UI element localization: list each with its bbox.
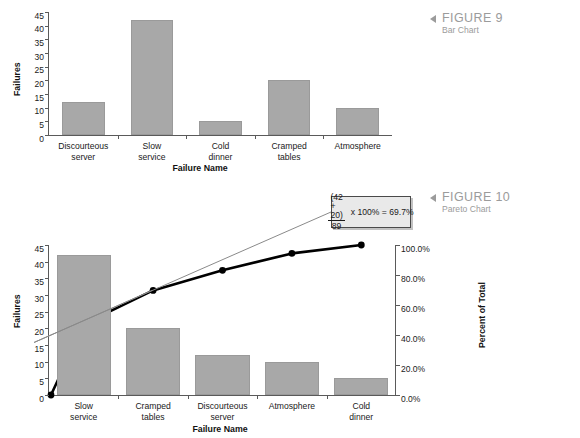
figure-10-label: FIGURE 10 <box>442 191 510 204</box>
callout-denominator: 89 <box>330 221 344 231</box>
figure-9-label: FIGURE 9 <box>442 12 503 25</box>
caption-triangle-icon <box>430 194 436 202</box>
callout-leader-line <box>0 0 580 438</box>
callout-numerator: (42 + 20) <box>328 193 344 220</box>
caption-triangle-icon <box>430 15 436 23</box>
figure-10-caption: Pareto Chart <box>442 204 510 215</box>
figure-caption-9: FIGURE 9 Bar Chart <box>430 12 503 36</box>
callout-expression: x 100% = 69.7% <box>351 207 414 217</box>
callout-box: (42 + 20) 89 x 100% = 69.7% <box>331 196 411 228</box>
figure-9-caption: Bar Chart <box>442 25 503 36</box>
callout-fraction: (42 + 20) 89 <box>328 193 344 230</box>
figure-caption-10: FIGURE 10 Pareto Chart <box>430 191 510 215</box>
figure-page: Failures 454035302520151050Discourteouss… <box>0 0 580 438</box>
